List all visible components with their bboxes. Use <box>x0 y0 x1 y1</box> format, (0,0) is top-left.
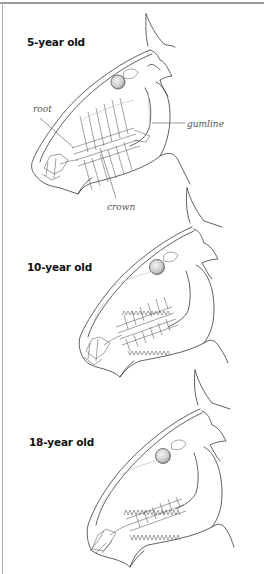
horse-skull-18-year-illustration <box>0 365 264 574</box>
annotation-root: root <box>33 104 52 114</box>
horse-skull-10-year-illustration <box>0 185 264 390</box>
annotation-gumline: gumline <box>187 119 224 129</box>
